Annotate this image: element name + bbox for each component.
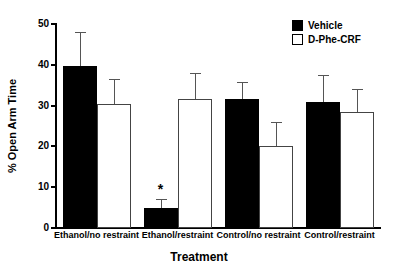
error-bar-line: [276, 122, 277, 146]
bar: [259, 146, 293, 228]
x-axis-tick-label: Control/no restraint: [216, 231, 300, 241]
legend-label-vehicle: Vehicle: [308, 21, 342, 31]
y-axis-tick-label: 50: [9, 19, 56, 29]
bar: [340, 112, 374, 228]
y-axis-tick-label: 30: [9, 101, 56, 111]
bar-group: [299, 24, 380, 228]
bar-group: [218, 24, 299, 228]
error-bar-line: [161, 199, 162, 207]
error-bar-line: [323, 75, 324, 102]
error-bar-cap: [75, 32, 86, 33]
bar: [63, 66, 97, 228]
x-axis-tick-label: Control/restraint: [304, 231, 375, 241]
bar: [306, 102, 340, 228]
open-square-icon: [292, 34, 303, 45]
legend: Vehicle D-Phe-CRF: [292, 20, 361, 48]
bar: [97, 104, 131, 228]
error-bar-line: [242, 82, 243, 100]
error-bar-cap: [318, 75, 329, 76]
bar: [225, 99, 259, 228]
bar: [144, 208, 178, 228]
filled-square-icon: [292, 20, 303, 31]
bar: [178, 99, 212, 228]
y-axis-tick-label: 20: [9, 141, 56, 151]
bar-group: [56, 24, 137, 228]
error-bar-cap: [190, 73, 201, 74]
error-bar-cap: [271, 122, 282, 123]
y-axis-tick-label: 0: [9, 223, 56, 233]
error-bar-cap: [109, 79, 120, 80]
error-bar-cap: [237, 82, 248, 83]
error-bar-line: [195, 73, 196, 100]
bar-group: *: [137, 24, 218, 228]
error-bar-line: [114, 79, 115, 104]
bar-chart-figure: % Open Arm Time 01020304050* Vehicle D-P…: [0, 0, 398, 272]
plot-area: 01020304050*: [56, 24, 380, 228]
y-axis-label: % Open Arm Time: [6, 79, 18, 173]
significance-marker: *: [158, 182, 163, 196]
y-axis-tick-label: 10: [9, 182, 56, 192]
x-axis-tick-label: Ethanol/no restraint: [54, 231, 139, 241]
legend-item-dphecrf: D-Phe-CRF: [292, 34, 361, 45]
error-bar-line: [80, 32, 81, 66]
error-bar-cap: [156, 199, 167, 200]
x-axis-title: Treatment: [170, 250, 227, 264]
error-bar-cap: [352, 89, 363, 90]
legend-item-vehicle: Vehicle: [292, 20, 361, 31]
legend-label-dphecrf: D-Phe-CRF: [308, 35, 361, 45]
y-axis-label-container: % Open Arm Time: [14, 24, 24, 228]
x-axis-tick-label: Ethanol/restraint: [142, 231, 214, 241]
error-bar-line: [357, 89, 358, 111]
y-axis-tick-label: 40: [9, 60, 56, 70]
